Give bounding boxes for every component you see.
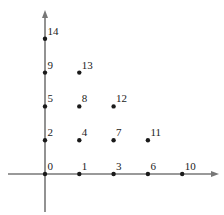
point-dot-icon [146,138,150,142]
point-dot-icon [146,172,150,176]
point-label: 14 [48,25,60,37]
lattice-point: 12 [111,92,127,108]
lattice-point: 7 [111,126,122,142]
point-label: 9 [48,59,54,71]
lattice-point: 8 [77,92,88,108]
point-label: 3 [116,160,122,172]
axes [8,10,219,212]
point-dot-icon [77,172,81,176]
point-dot-icon [43,172,47,176]
lattice-point: 4 [77,126,88,142]
point-label: 1 [82,160,88,172]
point-dot-icon [77,70,81,74]
points: 01234567891011121314 [43,25,196,176]
point-dot-icon [111,138,115,142]
point-label: 11 [150,126,161,138]
point-label: 6 [150,160,156,172]
point-dot-icon [43,37,47,41]
point-dot-icon [180,172,184,176]
point-label: 0 [48,160,54,172]
point-dot-icon [43,70,47,74]
lattice-diagram: 01234567891011121314 [0,0,224,215]
point-dot-icon [43,138,47,142]
point-label: 4 [82,126,88,138]
point-dot-icon [77,104,81,108]
point-label: 12 [116,92,127,104]
point-label: 8 [82,92,88,104]
point-label: 5 [48,92,54,104]
point-label: 2 [48,126,54,138]
point-label: 10 [185,160,197,172]
point-label: 13 [82,59,94,71]
x-axis-arrow-icon [211,171,219,177]
point-dot-icon [43,104,47,108]
point-label: 7 [116,126,122,138]
point-dot-icon [111,172,115,176]
y-axis-arrow-icon [42,10,48,18]
point-dot-icon [77,138,81,142]
lattice-point: 11 [146,126,161,142]
point-dot-icon [111,104,115,108]
lattice-point: 13 [77,59,93,75]
